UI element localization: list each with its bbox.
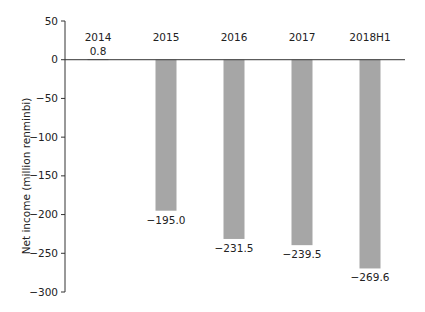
bar [292, 60, 313, 245]
category-label: 2015 [153, 31, 180, 43]
bar [360, 60, 381, 269]
bar [156, 60, 177, 211]
y-tick-label: −50 [36, 92, 58, 104]
y-tick-label: −250 [29, 247, 58, 259]
y-axis-label: Net income (million renminbi) [20, 98, 32, 255]
category-label: 2016 [221, 31, 248, 43]
value-label: −269.6 [351, 271, 390, 283]
y-tick-label: 0 [51, 53, 58, 65]
category-label: 2014 [85, 31, 112, 43]
y-tick-label: −200 [29, 208, 58, 220]
y-tick-label: −300 [29, 286, 58, 298]
y-tick-label: −150 [29, 169, 58, 181]
value-label: 0.8 [90, 45, 107, 57]
y-tick-label: 50 [45, 15, 58, 27]
value-label: −195.0 [147, 214, 186, 226]
category-label: 2017 [289, 31, 316, 43]
category-label: 2018H1 [349, 31, 390, 43]
bars [88, 59, 381, 268]
value-label: −239.5 [283, 248, 322, 260]
y-tick-label: −100 [29, 131, 58, 143]
bar [224, 60, 245, 239]
y-axis: 500−50−100−150−200−250−300 [29, 15, 65, 298]
bar-chart: 500−50−100−150−200−250−300 20140.82015−1… [0, 0, 425, 312]
value-label: −231.5 [215, 242, 254, 254]
